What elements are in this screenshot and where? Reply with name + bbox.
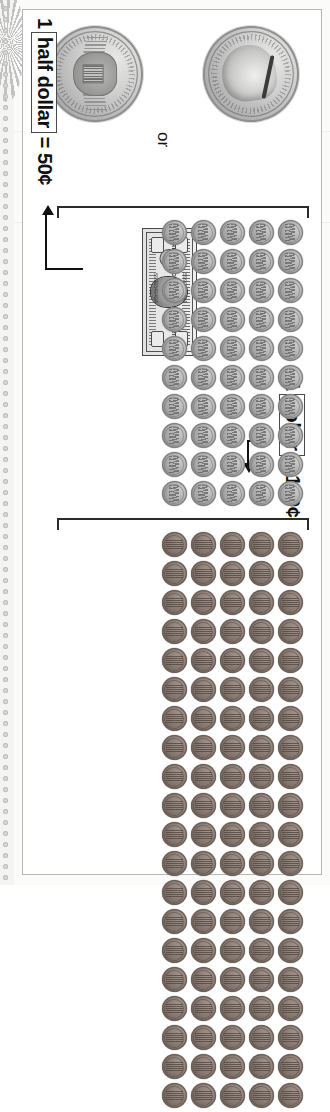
- binding-hole: [3, 567, 8, 572]
- penny-coin: [191, 909, 216, 934]
- penny-coin: [220, 938, 245, 963]
- penny-coin: [220, 735, 245, 760]
- binding-hole: [3, 193, 8, 198]
- penny-coin: [191, 735, 216, 760]
- nickel-coin: [220, 278, 245, 303]
- binding-hole: [3, 259, 8, 264]
- penny-coin: [162, 996, 187, 1021]
- nickel-coin: [191, 278, 216, 303]
- penny-coin: [220, 1054, 245, 1079]
- binding-hole: [3, 50, 8, 55]
- penny-coin: [249, 909, 274, 934]
- penny-coin: [278, 996, 303, 1021]
- binding-hole: [3, 413, 8, 418]
- nickel-coin: [278, 423, 303, 448]
- penny-coin: [220, 851, 245, 876]
- nickel-coin: [249, 365, 274, 390]
- binding-hole: [3, 325, 8, 330]
- nickel-coin: [249, 481, 274, 506]
- nickel-coin: [278, 394, 303, 419]
- penny-coin: [278, 909, 303, 934]
- binding-hole: [3, 545, 8, 550]
- nickel-coin: [191, 220, 216, 245]
- half-dollar-lead-number: 1: [34, 18, 56, 29]
- nickel-coin: [220, 423, 245, 448]
- penny-coin: [278, 590, 303, 615]
- half-dollar-arrow-head: [42, 205, 54, 215]
- nickel-coin: [249, 249, 274, 274]
- binding-hole: [3, 853, 8, 858]
- penny-coin: [162, 1054, 187, 1079]
- binding-hole: [3, 523, 8, 528]
- penny-coin: [162, 822, 187, 847]
- pennies-group: [158, 532, 303, 1112]
- binding-hole: [3, 347, 8, 352]
- binding-hole: [3, 721, 8, 726]
- penny-coin: [220, 793, 245, 818]
- nickels-group: [158, 220, 303, 510]
- nickel-coin: [191, 394, 216, 419]
- binding-hole: [3, 875, 8, 880]
- penny-coin: [249, 532, 274, 557]
- penny-coin: [162, 793, 187, 818]
- penny-coin: [191, 764, 216, 789]
- penny-coin: [191, 851, 216, 876]
- binding-hole: [3, 292, 8, 297]
- binding-hole: [3, 358, 8, 363]
- penny-coin: [249, 996, 274, 1021]
- penny-coin: [191, 590, 216, 615]
- penny-coin: [162, 851, 187, 876]
- penny-coin: [278, 793, 303, 818]
- nickel-coin: [278, 249, 303, 274]
- penny-coin: [162, 938, 187, 963]
- binding-hole: [3, 369, 8, 374]
- penny-coin: [249, 851, 274, 876]
- nickel-coin: [220, 452, 245, 477]
- binding-hole: [3, 83, 8, 88]
- binding-hole: [3, 501, 8, 506]
- binding-hole: [3, 182, 8, 187]
- or-connector-label: or: [153, 132, 173, 147]
- penny-coin: [191, 1054, 216, 1079]
- nickel-coin: [220, 365, 245, 390]
- penny-coin: [162, 1025, 187, 1050]
- binding-hole: [3, 732, 8, 737]
- binding-hole: [3, 765, 8, 770]
- nickel-coin: [249, 278, 274, 303]
- nickel-coin: [220, 336, 245, 361]
- binding-hole: [3, 61, 8, 66]
- penny-coin: [191, 967, 216, 992]
- nickel-coin: [249, 452, 274, 477]
- penny-coin: [278, 967, 303, 992]
- binding-hole: [3, 611, 8, 616]
- nickel-coin: [220, 249, 245, 274]
- binding-hole: [3, 787, 8, 792]
- penny-coin: [162, 706, 187, 731]
- coin-rim: [52, 31, 138, 117]
- nickel-coin: [249, 423, 274, 448]
- binding-hole: [3, 776, 8, 781]
- half-dollar-arrow-shaft: [45, 210, 47, 268]
- nickel-coin: [249, 336, 274, 361]
- penny-coin: [162, 590, 187, 615]
- nickel-coin: [249, 394, 274, 419]
- penny-coin: [278, 1083, 303, 1108]
- nickel-coin: [162, 481, 187, 506]
- binding-hole: [3, 6, 8, 11]
- nickel-coin: [278, 481, 303, 506]
- binding-hole: [3, 446, 8, 451]
- binding-hole: [3, 457, 8, 462]
- penny-coin: [220, 1025, 245, 1050]
- nickel-coin: [278, 307, 303, 332]
- half-dollar-reverse: [47, 26, 143, 122]
- nickel-coin: [278, 220, 303, 245]
- nickels-bracket: [57, 206, 309, 218]
- penny-coin: [249, 590, 274, 615]
- binding-hole: [3, 402, 8, 407]
- penny-coin: [162, 967, 187, 992]
- binding-hole: [3, 534, 8, 539]
- binding-hole: [3, 699, 8, 704]
- nickel-coin: [191, 365, 216, 390]
- nickel-coin: [162, 336, 187, 361]
- penny-coin: [162, 619, 187, 644]
